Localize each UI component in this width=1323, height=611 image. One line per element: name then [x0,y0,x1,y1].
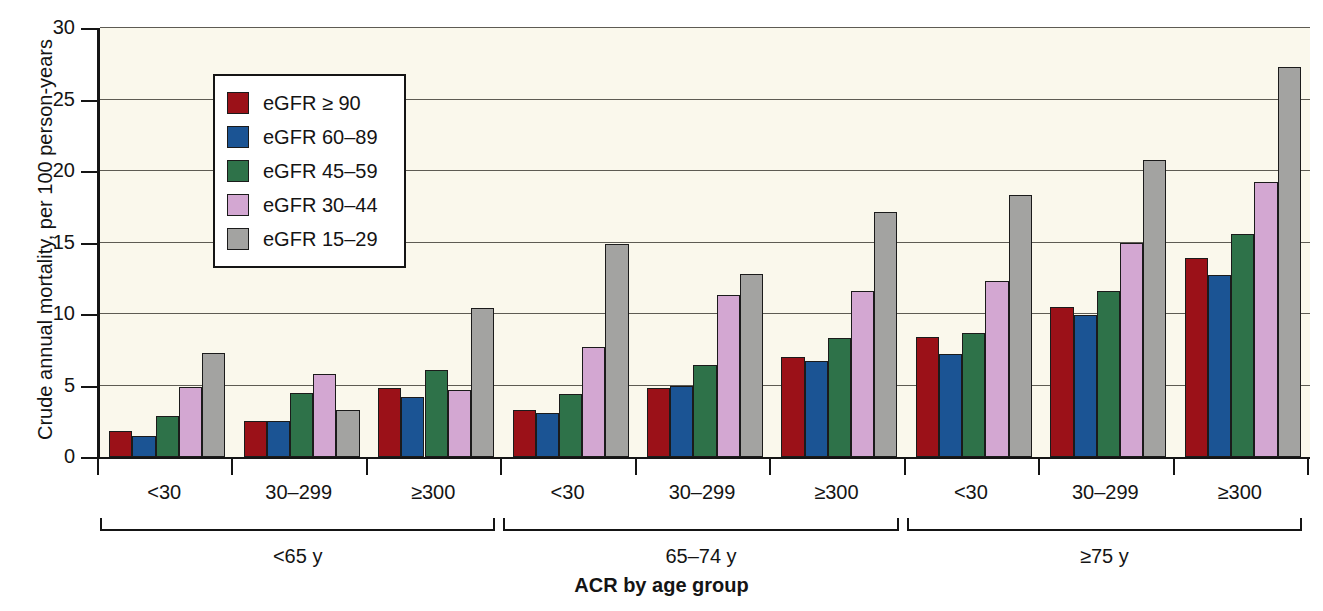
legend-label: eGFR 60–89 [263,126,378,149]
bar [717,295,740,457]
x-axis-category-label: 30–299 [669,481,736,504]
legend-swatch [227,194,249,216]
x-axis-category-label: ≥300 [1218,481,1262,504]
legend-item: eGFR 30–44 [227,188,378,222]
bar [1050,307,1073,457]
bar [985,281,1008,457]
bar [401,397,424,457]
bar [916,337,939,457]
bar [1120,243,1143,458]
bar [202,353,225,457]
bar [605,244,628,457]
bar [290,393,313,457]
age-group-bracket [907,518,1302,531]
bar [1074,315,1097,457]
y-axis-tick [81,314,97,316]
legend-swatch [227,126,249,148]
legend-swatch [227,228,249,250]
x-axis-category-label: <30 [551,481,585,504]
x-axis-tick [231,459,233,475]
bar [513,410,536,457]
y-axis-tick [81,171,97,173]
bar [471,308,494,457]
y-axis-tick [81,457,97,459]
x-axis-tick [1173,459,1175,475]
chart-legend: eGFR ≥ 90eGFR 60–89eGFR 45–59eGFR 30–44e… [213,74,406,268]
x-axis-category-label: <30 [147,481,181,504]
legend-swatch [227,160,249,182]
y-axis-tick-label: 30 [23,16,75,39]
bar [156,416,179,457]
y-axis-tick [81,100,97,102]
y-axis-tick-label: 20 [23,159,75,182]
y-axis-tick [81,386,97,388]
x-axis-category-label: 30–299 [265,481,332,504]
bar [109,431,132,457]
x-axis-tick [904,459,906,475]
age-group-label: 65–74 y [665,545,736,568]
y-axis-tick [81,28,97,30]
age-group-label: <65 y [273,545,322,568]
legend-item: eGFR ≥ 90 [227,86,378,120]
bar [874,212,897,457]
legend-label: eGFR 15–29 [263,228,378,251]
bar [939,354,962,457]
bar [378,388,401,457]
bar [1143,160,1166,457]
bar [1009,195,1032,457]
bar [425,370,448,457]
bar [179,387,202,457]
chart-figure: Crude annual mortality, per 100 person-y… [0,0,1323,611]
bar [1097,291,1120,457]
y-axis-tick-label: 10 [23,302,75,325]
legend-item: eGFR 60–89 [227,120,378,154]
legend-label: eGFR ≥ 90 [263,92,361,115]
y-axis-tick-label: 25 [23,88,75,111]
x-axis-tick [1307,459,1309,475]
x-axis [97,459,1310,460]
bar [559,394,582,457]
age-group-bracket [503,518,898,531]
x-axis-category-label: <30 [954,481,988,504]
x-axis-tick [366,459,368,475]
bar [1231,234,1254,457]
bar [336,410,359,457]
y-axis-tick-label: 5 [23,374,75,397]
x-axis-tick [500,459,502,475]
bar [448,390,471,457]
bar [132,436,155,457]
x-axis-tick [769,459,771,475]
bar [805,361,828,457]
plot-area: eGFR ≥ 90eGFR 60–89eGFR 45–59eGFR 30–44e… [97,28,1310,459]
legend-swatch [227,92,249,114]
x-axis-category-label: ≥300 [814,481,858,504]
x-axis-tick [635,459,637,475]
x-axis-category-label: 30–299 [1072,481,1139,504]
x-axis-tick [97,459,99,475]
bar [962,333,985,457]
y-axis-tick-label: 0 [23,445,75,468]
bar [851,291,874,457]
legend-item: eGFR 15–29 [227,222,378,256]
y-axis-tick-label: 15 [23,231,75,254]
bar [1254,182,1277,457]
gridline [100,27,1310,28]
legend-item: eGFR 45–59 [227,154,378,188]
bar [693,365,716,457]
x-axis-title: ACR by age group [0,574,1323,597]
bar [670,386,693,458]
bar [1185,258,1208,457]
bar [740,274,763,457]
x-axis-category-label: ≥300 [411,481,455,504]
x-axis-tick [1038,459,1040,475]
bar [1278,67,1301,457]
bar [647,388,670,457]
bar [828,338,851,457]
bar [244,421,267,457]
age-group-bracket [100,518,495,531]
y-axis-tick [81,243,97,245]
bar [267,421,290,457]
bar [781,357,804,457]
bar [536,413,559,457]
age-group-label: ≥75 y [1080,545,1129,568]
